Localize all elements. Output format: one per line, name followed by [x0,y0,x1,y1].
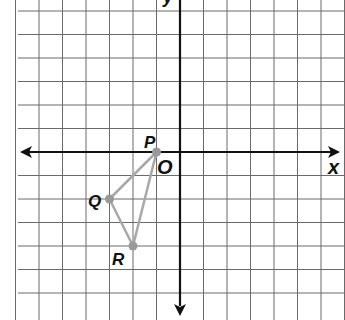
x-axis-label: x [327,156,340,178]
point-q-label: Q [88,192,101,211]
y-axis [174,0,186,316]
point-r-label: R [112,250,125,269]
coordinate-plane: y x O P Q R [0,0,345,320]
y-axis-label: y [162,0,174,7]
origin-label: O [157,156,173,178]
point-p-label: P [144,133,156,152]
point-q: Q [88,192,114,211]
